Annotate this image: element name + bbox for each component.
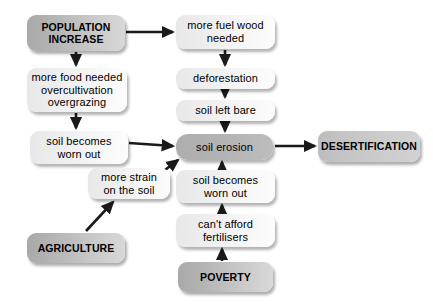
node-population-increase[interactable]: POPULATION INCREASE [27, 15, 125, 51]
node-more-food-needed[interactable]: more food needed overcultivation overgra… [27, 68, 127, 112]
node-cant-afford-fertilisers[interactable]: can't afford fertilisers [176, 214, 275, 247]
node-poverty[interactable]: POVERTY [178, 262, 273, 292]
node-more-fuel-wood-needed[interactable]: more fuel wood needed [176, 15, 275, 49]
node-soil-erosion[interactable]: soil erosion [176, 134, 273, 160]
node-more-strain-on-the-soil[interactable]: more strain on the soil [88, 168, 170, 199]
node-soil-becomes-worn-out-left[interactable]: soil becomes worn out [30, 131, 128, 164]
flowchart-canvas: POPULATION INCREASE more fuel wood neede… [0, 0, 433, 306]
edge-agriculture-to-strain [86, 202, 113, 231]
node-deforestation[interactable]: deforestation [176, 68, 275, 89]
node-agriculture[interactable]: AGRICULTURE [27, 233, 125, 263]
node-soil-left-bare[interactable]: soil left bare [176, 100, 275, 121]
edge-wornoutleft-to-erosion [129, 143, 173, 146]
node-soil-becomes-worn-out-right[interactable]: soil becomes worn out [176, 170, 275, 203]
node-desertification[interactable]: DESERTIFICATION [318, 131, 420, 162]
